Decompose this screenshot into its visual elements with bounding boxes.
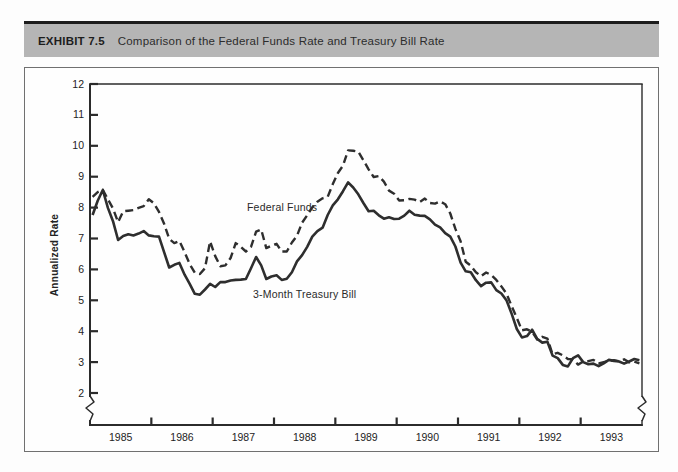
x-year-label: 1992 (538, 431, 562, 443)
series-label-treasury-bill: 3-Month Treasury Bill (253, 288, 356, 300)
x-year-label: 1988 (293, 431, 317, 443)
rates-line-chart: Annualized Rate Federal Funds 3-Month Tr… (0, 0, 678, 472)
treasury-bill-line (93, 182, 640, 366)
y-tick-label: 6 (78, 263, 84, 275)
y-tick-label: 12 (72, 78, 84, 90)
y-tick-label: 7 (78, 232, 84, 244)
y-tick-label: 10 (72, 139, 84, 151)
plot-elements: 1211109876543219851986198719881989199019… (72, 78, 646, 444)
y-tick-label: 9 (78, 170, 84, 182)
y-tick-label: 8 (78, 201, 84, 213)
x-year-label: 1991 (477, 431, 501, 443)
x-year-label: 1993 (600, 431, 624, 443)
exhibit-figure: EXHIBIT 7.5 Comparison of the Federal Fu… (0, 0, 678, 472)
y-tick-label: 11 (73, 108, 84, 120)
y-axis-break-mark (86, 396, 94, 421)
right-axis-break-mark (638, 396, 646, 421)
x-year-label: 1987 (232, 431, 256, 443)
x-year-label: 1989 (354, 431, 378, 443)
federal-funds-line (93, 150, 640, 364)
y-axis-title: Annualized Rate (49, 214, 60, 296)
series-label-federal-funds: Federal Funds (247, 201, 317, 213)
y-tick-label: 4 (78, 325, 84, 337)
y-tick-label: 2 (78, 387, 84, 399)
y-tick-label: 3 (78, 356, 84, 368)
x-year-label: 1985 (109, 431, 133, 443)
x-year-label: 1990 (416, 431, 440, 443)
y-tick-label: 5 (78, 294, 84, 306)
x-year-label: 1986 (170, 431, 194, 443)
